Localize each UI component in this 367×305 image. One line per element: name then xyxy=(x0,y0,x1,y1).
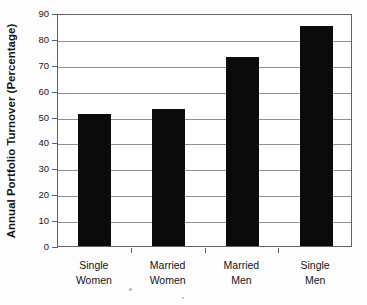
bar-chart-figure: Annual Portfolio Turnover (Percentage) 0… xyxy=(0,0,367,305)
y-axis-title-text: Annual Portfolio Turnover (Percentage) xyxy=(5,24,17,238)
x-tick-mark xyxy=(205,248,206,253)
x-tick-mark xyxy=(131,248,132,253)
y-tick-label: 10 xyxy=(25,216,49,226)
bar xyxy=(300,26,333,246)
y-tick-label: 30 xyxy=(25,165,49,175)
y-tick-label: 0 xyxy=(25,242,49,252)
bar xyxy=(226,57,259,246)
y-tick-label: 40 xyxy=(25,139,49,149)
y-tick-label: 80 xyxy=(25,35,49,45)
x-tick-label: SingleMen xyxy=(272,258,358,288)
bar xyxy=(78,114,111,246)
y-tick-mark xyxy=(52,247,58,248)
x-tick-label-line2: Men xyxy=(272,273,358,288)
y-tick-label: 60 xyxy=(25,87,49,97)
scan-speck xyxy=(182,297,184,299)
bar xyxy=(152,109,185,246)
y-axis-title: Annual Portfolio Turnover (Percentage) xyxy=(0,0,22,262)
y-tick-label: 20 xyxy=(25,190,49,200)
y-tick-label: 70 xyxy=(25,61,49,71)
scan-speck xyxy=(129,288,132,291)
y-tick-label: 50 xyxy=(25,113,49,123)
plot-area xyxy=(57,14,352,247)
x-tick-mark xyxy=(278,248,279,253)
y-tick-label: 90 xyxy=(25,9,49,19)
